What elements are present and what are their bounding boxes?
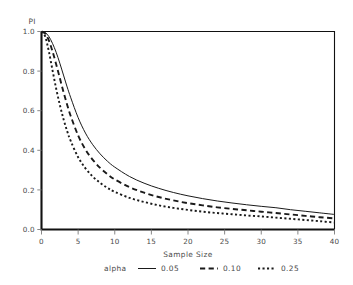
series-line-alpha-0.05: [42, 32, 335, 215]
legend-label-0.25: 0.25: [281, 264, 299, 273]
y-tick-label: 0.4: [23, 146, 35, 155]
y-tick-label: 0.2: [23, 186, 35, 195]
plot-frame-top-right: [42, 32, 335, 230]
x-tick-label: 5: [76, 237, 81, 246]
y-axis-title: PI: [29, 17, 36, 26]
legend-title: alpha: [104, 264, 127, 273]
series-line-alpha-0.10: [42, 32, 335, 219]
x-tick-label: 10: [110, 237, 120, 246]
series-group: [42, 32, 335, 223]
x-tick-label: 25: [220, 237, 230, 246]
x-tick-label: 20: [183, 237, 193, 246]
x-tick-label: 30: [256, 237, 266, 246]
series-line-alpha-0.25: [42, 32, 335, 223]
y-tick-label: 0.0: [23, 225, 35, 234]
line-chart: 0.00.20.40.60.81.0PI0510152025303540Samp…: [0, 0, 353, 285]
y-tick-label: 0.8: [23, 67, 35, 76]
chart-container: 0.00.20.40.60.81.0PI0510152025303540Samp…: [0, 0, 353, 285]
y-tick-label: 0.6: [23, 106, 35, 115]
x-axis: 0510152025303540: [39, 230, 339, 247]
y-tick-label: 1.0: [23, 27, 35, 36]
y-axis: 0.00.20.40.60.81.0: [23, 27, 42, 234]
legend-label-0.10: 0.10: [223, 264, 241, 273]
x-axis-title: Sample Size: [163, 250, 213, 259]
x-tick-label: 35: [293, 237, 303, 246]
legend: alpha0.050.100.25: [104, 264, 299, 273]
plot-axis-lines: [42, 32, 335, 230]
x-tick-label: 0: [39, 237, 44, 246]
x-tick-label: 40: [330, 237, 340, 246]
plot-frame: [42, 32, 335, 230]
x-tick-label: 15: [147, 237, 157, 246]
legend-label-0.05: 0.05: [161, 264, 179, 273]
